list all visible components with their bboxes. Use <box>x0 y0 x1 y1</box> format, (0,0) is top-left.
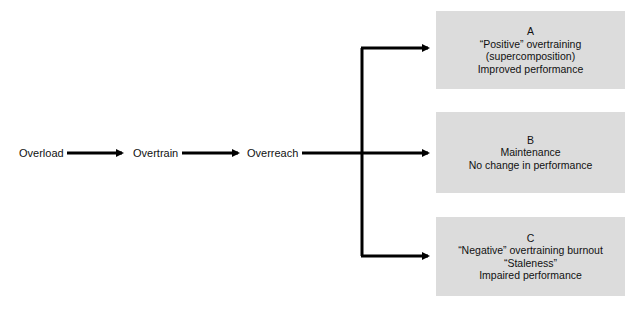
outcome-line: Maintenance <box>500 146 560 159</box>
outcome-letter: C <box>527 232 535 245</box>
outcome-letter: B <box>527 134 534 147</box>
outcome-letter: A <box>527 25 534 38</box>
outcome-line: “Staleness” <box>504 257 557 270</box>
outcome-line: Improved performance <box>478 63 584 76</box>
outcome-box-a: A “Positive” overtraining (supercomposit… <box>436 11 625 89</box>
outcome-line: “Positive” overtraining <box>480 38 582 51</box>
outcome-line: No change in performance <box>469 159 593 172</box>
outcome-line: (supercomposition) <box>486 50 575 63</box>
stage-overreach: Overreach <box>247 147 298 160</box>
outcome-box-b: B Maintenance No change in performance <box>436 112 625 193</box>
stage-overload: Overload <box>19 147 64 160</box>
stage-overtrain: Overtrain <box>133 147 178 160</box>
outcome-line: “Negative” overtraining burnout <box>458 244 603 257</box>
outcome-box-c: C “Negative” overtraining burnout “Stale… <box>436 217 625 296</box>
outcome-line: Impaired performance <box>479 269 582 282</box>
